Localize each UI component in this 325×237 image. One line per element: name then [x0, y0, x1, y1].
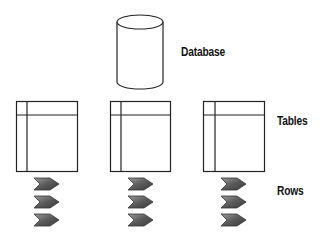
table-icon — [17, 102, 78, 172]
row-chevron-icon — [128, 214, 153, 226]
row-chevron-icon — [221, 178, 246, 190]
row-chevron-icon — [128, 178, 153, 190]
row-chevron-icon — [221, 196, 246, 208]
row-chevron-icon — [34, 214, 59, 226]
row-chevron-icon — [34, 178, 59, 190]
table-icon — [111, 102, 171, 172]
tables-label: Tables — [277, 114, 308, 128]
row-chevron-icon — [128, 196, 153, 208]
database-cylinder-icon — [117, 15, 163, 89]
table-icon — [204, 102, 265, 172]
database-hierarchy-diagram: Database Tables Rows — [0, 0, 325, 237]
rows-label: Rows — [277, 184, 304, 198]
row-chevron-icon — [221, 214, 246, 226]
row-chevron-icon — [34, 196, 59, 208]
database-label: Database — [181, 45, 225, 59]
